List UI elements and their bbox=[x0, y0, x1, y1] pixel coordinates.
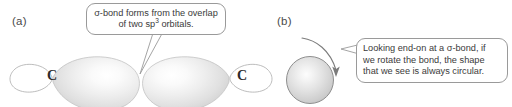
orbital-overlap-figure: (a) bbox=[0, 0, 512, 107]
atom-label-carbon-left: C bbox=[47, 68, 57, 84]
callout-sigma-bond-overlap: σ-bond forms from the overlap of two sp3… bbox=[86, 3, 226, 35]
curved-arrow-shaft bbox=[302, 38, 336, 70]
panel-label-b: (b) bbox=[277, 15, 292, 27]
panel-label-a: (a) bbox=[12, 15, 27, 27]
callout-tail-a-shape bbox=[140, 30, 164, 74]
callout-a-line-2-post: orbitals. bbox=[159, 19, 194, 29]
callout-tail-a bbox=[120, 30, 180, 75]
atom-label-carbon-right: C bbox=[237, 68, 247, 84]
sp3-back-lobe-left bbox=[10, 64, 52, 92]
callout-a-line-2: of two sp3 orbitals. bbox=[92, 19, 220, 30]
callout-b-line-3: that we see is always circular. bbox=[363, 66, 502, 78]
callout-b-line-2: we rotate the bond, the shape bbox=[363, 55, 502, 67]
callout-b-line-1: Looking end-on at a σ-bond, if bbox=[363, 43, 502, 55]
curved-arrow-head bbox=[332, 67, 340, 78]
callout-end-on-view: Looking end-on at a σ-bond, if we rotate… bbox=[356, 38, 508, 83]
callout-a-line-2-pre: of two sp bbox=[118, 19, 155, 29]
